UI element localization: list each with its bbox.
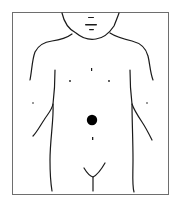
groin-outline: [84, 163, 105, 177]
right-arm-mark: [146, 102, 148, 104]
sternum-mark: [91, 68, 92, 71]
right-nipple-mark: [108, 80, 110, 82]
nose-mark: [88, 17, 94, 18]
navel-mark: [92, 137, 93, 140]
right-shoulder-outline: [110, 33, 153, 80]
location-marker-dot: [87, 115, 97, 125]
left-shoulder-outline: [30, 34, 72, 80]
left-nipple-mark: [69, 80, 71, 82]
body-outline-diagram: [0, 0, 178, 203]
right-torso-side: [130, 70, 152, 140]
lip-mark: [89, 29, 94, 30]
left-hip-outline: [50, 104, 53, 191]
mouth-mark: [85, 24, 97, 25]
right-hip-outline: [132, 104, 134, 192]
left-arm-mark: [32, 102, 34, 104]
